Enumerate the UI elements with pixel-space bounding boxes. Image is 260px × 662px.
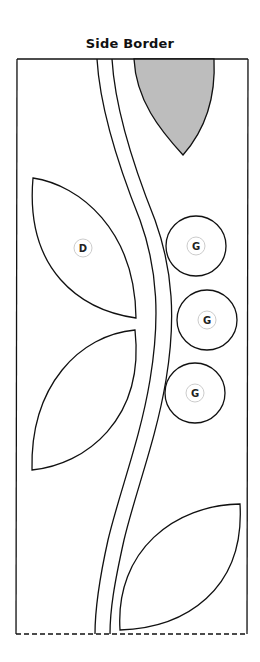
leaf-lower-left xyxy=(32,330,136,470)
border-left-edge xyxy=(16,59,17,634)
circle-g-2: G xyxy=(177,290,237,350)
stem xyxy=(95,59,172,634)
circle-g-1-label: G xyxy=(192,241,200,252)
side-border-pattern: D G G G xyxy=(0,0,260,662)
circle-g-1: G xyxy=(166,216,226,276)
leaf-lower-right xyxy=(120,504,241,630)
circle-g-3-label: G xyxy=(191,388,199,399)
leaf-d-label: D xyxy=(79,243,87,254)
stem-right-edge xyxy=(110,59,172,634)
stem-left-edge xyxy=(95,59,156,634)
circle-g-2-label: G xyxy=(203,315,211,326)
shaded-leaf xyxy=(134,59,214,155)
border-right-edge xyxy=(247,59,248,634)
border-frame xyxy=(16,59,248,634)
circle-g-3: G xyxy=(165,363,225,423)
